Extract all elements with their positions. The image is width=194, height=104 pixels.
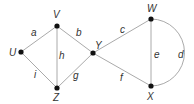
edge-label-d: d bbox=[178, 49, 184, 60]
node-W bbox=[148, 16, 153, 21]
node-U bbox=[18, 49, 23, 54]
edge-label-g: g bbox=[73, 70, 79, 81]
node-Y bbox=[90, 50, 95, 55]
edge-label-c: c bbox=[120, 24, 125, 35]
node-Z bbox=[54, 85, 59, 90]
node-X bbox=[148, 83, 153, 88]
edge-label-f: f bbox=[120, 72, 124, 83]
edge-b bbox=[57, 26, 93, 53]
edge-label-h: h bbox=[59, 50, 65, 61]
node-label-U: U bbox=[9, 47, 17, 58]
node-label-X: X bbox=[146, 91, 154, 102]
node-label-W: W bbox=[147, 3, 158, 14]
graph-canvas: abhigcfedUVYZWX bbox=[0, 0, 194, 104]
edge-label-e: e bbox=[154, 49, 160, 60]
node-label-V: V bbox=[53, 9, 61, 20]
node-V bbox=[54, 23, 59, 28]
edge-label-b: b bbox=[76, 27, 82, 38]
edge-label-i: i bbox=[34, 69, 37, 80]
edge-i bbox=[21, 52, 57, 88]
edge-label-a: a bbox=[31, 27, 37, 38]
node-label-Z: Z bbox=[52, 92, 60, 103]
edge-a bbox=[21, 26, 57, 52]
graph-diagram: abhigcfedUVYZWX bbox=[0, 0, 194, 104]
node-label-Y: Y bbox=[95, 40, 103, 51]
